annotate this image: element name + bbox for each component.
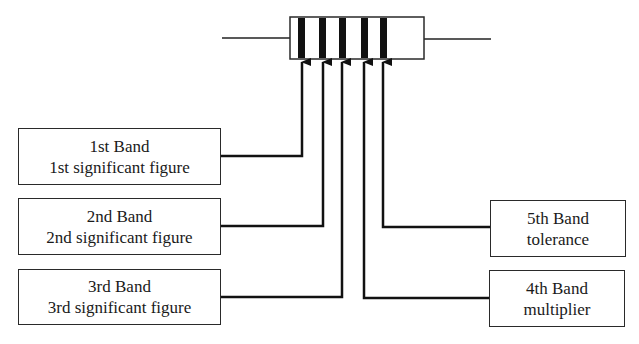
band-4-title: 4th Band [526,278,588,299]
band-3-description: 3rd significant figure [48,297,192,318]
label-band-2: 2nd Band 2nd significant figure [18,198,221,255]
band-5 [380,18,387,58]
resistor-body [290,17,424,59]
label-band-4: 4th Band multiplier [489,270,625,327]
band-1-description: 1st significant figure [49,157,190,178]
connector-band-5 [383,62,490,227]
band-5-title: 5th Band [527,208,589,229]
band-3 [339,18,346,58]
band-2-title: 2nd Band [87,206,153,227]
band-2-description: 2nd significant figure [46,227,192,248]
band-3-title: 3rd Band [88,276,151,297]
band-1-title: 1st Band [90,136,150,157]
band-2 [319,18,326,58]
band-1 [298,18,305,58]
label-band-5: 5th Band tolerance [490,200,626,257]
band-4-description: multiplier [523,299,590,320]
label-band-3: 3rd Band 3rd significant figure [18,269,221,325]
band-4 [361,18,368,58]
label-band-1: 1st Band 1st significant figure [18,128,221,185]
band-5-description: tolerance [527,229,589,250]
connector-band-2 [220,62,323,226]
connector-band-1 [220,62,302,156]
